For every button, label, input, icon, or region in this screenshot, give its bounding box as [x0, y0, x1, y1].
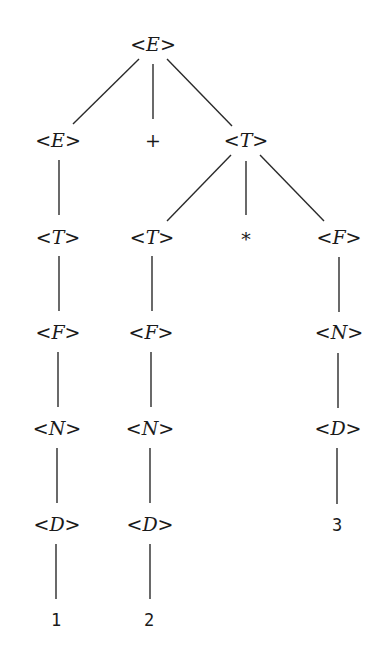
nonterminal-node: <N>	[315, 323, 363, 342]
left-angle-bracket: <	[33, 513, 49, 535]
right-angle-bracket: >	[160, 33, 176, 55]
tree-edge	[73, 59, 139, 124]
nonterminal-node: <E>	[35, 131, 81, 150]
nonterminal-node: <D>	[314, 419, 361, 438]
nonterminal-node: <T>	[224, 131, 269, 150]
left-angle-bracket: <	[35, 321, 51, 343]
nonterminal-symbol: T	[146, 226, 159, 248]
right-angle-bracket: >	[158, 321, 174, 343]
right-angle-bracket: >	[65, 129, 81, 151]
nonterminal-node: <N>	[33, 419, 81, 438]
nonterminal-symbol: T	[52, 226, 65, 248]
right-angle-bracket: >	[158, 513, 174, 535]
nonterminal-symbol: F	[51, 321, 64, 343]
left-angle-bracket: <	[315, 321, 331, 343]
left-angle-bracket: <	[126, 417, 142, 439]
right-angle-bracket: >	[158, 417, 174, 439]
right-angle-bracket: >	[346, 226, 362, 248]
nonterminal-node: <E>	[130, 35, 176, 54]
nonterminal-node: <F>	[316, 228, 361, 247]
right-angle-bracket: >	[65, 417, 81, 439]
right-angle-bracket: >	[64, 226, 80, 248]
leaf-digit-node: 3	[332, 517, 342, 534]
parse-tree-diagram: <E><E>+<T><T><T>*<F><F><F><N><N><N><D><D…	[0, 0, 387, 662]
right-angle-bracket: >	[346, 417, 362, 439]
leaf-digit-node: 1	[51, 612, 61, 629]
nonterminal-node: <D>	[33, 515, 80, 534]
nonterminal-node: <F>	[35, 323, 80, 342]
operator-node: *	[241, 230, 251, 249]
nonterminal-node: <T>	[130, 228, 175, 247]
left-angle-bracket: <	[126, 513, 142, 535]
left-angle-bracket: <	[36, 226, 52, 248]
nonterminal-node: <F>	[128, 323, 173, 342]
nonterminal-node: <N>	[126, 419, 174, 438]
right-angle-bracket: >	[347, 321, 363, 343]
nonterminal-symbol: N	[49, 417, 66, 439]
right-angle-bracket: >	[65, 513, 81, 535]
nonterminal-symbol: F	[332, 226, 345, 248]
nonterminal-node: <T>	[36, 228, 81, 247]
nonterminal-symbol: D	[142, 513, 157, 535]
tree-edge	[260, 155, 324, 221]
right-angle-bracket: >	[252, 129, 268, 151]
left-angle-bracket: <	[224, 129, 240, 151]
right-angle-bracket: >	[65, 321, 81, 343]
left-angle-bracket: <	[314, 417, 330, 439]
nonterminal-symbol: E	[146, 33, 160, 55]
nonterminal-symbol: E	[51, 129, 65, 151]
right-angle-bracket: >	[158, 226, 174, 248]
nonterminal-symbol: N	[142, 417, 159, 439]
left-angle-bracket: <	[316, 226, 332, 248]
left-angle-bracket: <	[130, 33, 146, 55]
nonterminal-symbol: N	[331, 321, 348, 343]
tree-edge	[167, 155, 231, 221]
nonterminal-node: <D>	[126, 515, 173, 534]
nonterminal-symbol: D	[330, 417, 345, 439]
tree-edge	[167, 59, 232, 126]
left-angle-bracket: <	[35, 129, 51, 151]
operator-node: +	[145, 131, 161, 150]
nonterminal-symbol: F	[144, 321, 157, 343]
left-angle-bracket: <	[33, 417, 49, 439]
nonterminal-symbol: T	[240, 129, 253, 151]
left-angle-bracket: <	[128, 321, 144, 343]
nonterminal-symbol: D	[49, 513, 64, 535]
left-angle-bracket: <	[130, 226, 146, 248]
leaf-digit-node: 2	[144, 612, 154, 629]
